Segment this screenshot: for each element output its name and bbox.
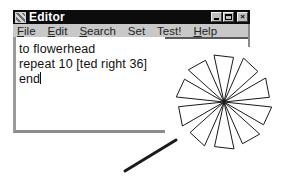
flower-petal	[214, 55, 234, 102]
turtle-graphics-canvas	[0, 0, 289, 179]
flower-petal	[188, 60, 224, 102]
flower-petal	[224, 102, 272, 125]
flower-petal	[176, 79, 224, 102]
flower-petal	[224, 102, 260, 144]
pointer-line	[125, 140, 176, 171]
flower-petal	[215, 102, 235, 149]
flowerhead-drawing	[176, 55, 271, 149]
